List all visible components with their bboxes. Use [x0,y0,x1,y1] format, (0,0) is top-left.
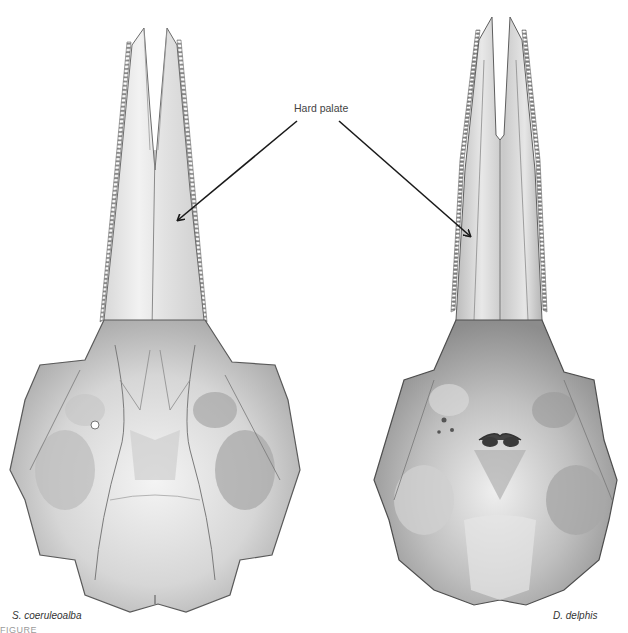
figure: Hard palate S. coeruleoalba D. delphis F… [0,0,628,633]
skull-illustration-s-coeruleoalba [0,0,314,620]
species-label-right: D. delphis [553,610,597,621]
figure-caption-fragment: FIGURE [0,627,628,633]
skull-illustration-d-delphis [314,0,628,620]
hard-palate-label: Hard palate [294,102,348,114]
species-label-left: S. coeruleoalba [12,610,82,621]
